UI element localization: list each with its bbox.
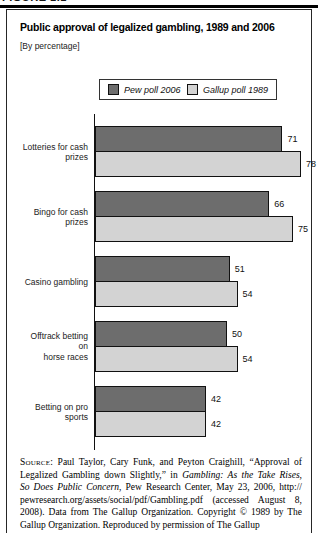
figure-panel: Public approval of legalized gambling, 1… [6,9,312,533]
category-label: Offtrack betting onhorse races [20,331,88,363]
bar-pew-2006 [95,191,269,217]
category-label: Casino gambling [20,276,88,287]
bar-pew-2006 [95,126,282,152]
bar-pew-2006 [95,256,230,282]
bar-row: 71 [95,126,299,152]
bar-chart: Lotteries for cashprizes7178Bingo for ca… [20,114,299,450]
bar-gallup-1989 [95,411,206,437]
source-line: 2008). Data from The Gallup Organization… [20,506,302,519]
bar-row: 75 [95,216,299,242]
bar-row: 42 [95,411,299,437]
source-line: pewresearch.org/assets/social/pdf/Gambli… [20,494,302,507]
legend-label: Gallup poll 1989 [203,85,268,95]
bar-row: 42 [95,386,299,412]
chart-legend: Pew poll 2006Gallup poll 1989 [99,79,277,100]
source-line: So Does Public Concern, Pew Research Cen… [20,481,302,494]
bar-row: 66 [95,191,299,217]
legend-swatch-icon [108,84,119,95]
heading-rule [0,5,318,8]
value-label: 54 [243,354,253,364]
source-line: Source: Paul Taylor, Cary Funk, and Peyt… [20,456,302,469]
chart-subtitle: [By percentage] [20,41,299,51]
value-label: 71 [287,134,297,144]
value-label: 66 [274,199,284,209]
bar-pew-2006 [95,386,206,412]
bar-gallup-1989 [95,151,301,177]
figure-page: { "figure": { "page_heading": "FIGURE 1.… [0,0,318,533]
figure-number-label: FIGURE 1.1 [2,0,202,4]
bar-group: Betting on pro sports4242 [95,379,299,444]
value-label: 51 [235,264,245,274]
bar-row: 51 [95,256,299,282]
bar-gallup-1989 [95,346,238,372]
source-line: Legalized Gambling down Slightly,” in Ga… [20,469,302,482]
value-label: 42 [211,419,221,429]
bar-group: Offtrack betting onhorse races5054 [95,314,299,379]
bar-row: 54 [95,346,299,372]
source-note: Source: Paul Taylor, Cary Funk, and Peyt… [20,456,302,531]
bar-gallup-1989 [95,281,238,307]
legend-item: Pew poll 2006 [108,84,181,95]
bar-group: Casino gambling5154 [95,249,299,314]
bar-row: 50 [95,321,299,347]
bar-gallup-1989 [95,216,293,242]
value-label: 75 [298,224,308,234]
category-label: Betting on pro sports [20,401,88,422]
value-label: 54 [243,289,253,299]
bar-group: Bingo for cashprizes6675 [95,184,299,249]
legend-item: Gallup poll 1989 [187,84,268,95]
bar-pew-2006 [95,321,227,347]
value-label: 78 [306,159,316,169]
bar-row: 54 [95,281,299,307]
value-label: 42 [211,394,221,404]
source-line: Gallup Organization. Reproduced by permi… [20,519,302,532]
chart-title: Public approval of legalized gambling, 1… [20,21,299,34]
category-label: Bingo for cashprizes [20,206,88,227]
page-heading-clipped: FIGURE 1.1 [2,0,202,4]
category-label: Lotteries for cashprizes [20,141,88,162]
bar-group: Lotteries for cashprizes7178 [95,119,299,184]
bar-row: 78 [95,151,299,177]
legend-swatch-icon [187,84,198,95]
value-label: 50 [232,329,242,339]
legend-label: Pew poll 2006 [124,85,181,95]
